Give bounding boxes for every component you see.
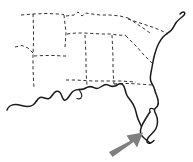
map-figure — [0, 0, 193, 162]
southeast-us-map — [0, 0, 193, 162]
